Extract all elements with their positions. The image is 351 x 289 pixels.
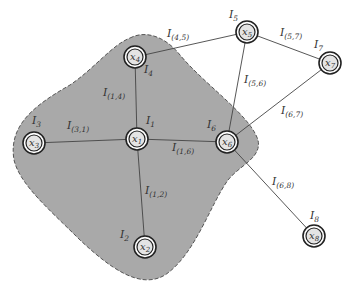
node-x2: x2: [134, 236, 156, 258]
node-x5: x5: [236, 21, 258, 43]
graph-diagram: I(1,4)I(3,1)I(1,6)I(1,2)I(4,5)I(5,6)I(5,…: [0, 0, 351, 289]
node-x4: x4: [124, 46, 146, 68]
node-label-x8: I8: [309, 209, 319, 224]
node-label-x5: I5: [228, 8, 238, 23]
node-x6: x6: [216, 131, 238, 153]
node-x8: x8: [303, 225, 325, 247]
edge-label-x6-x7: I(6,7): [280, 104, 303, 119]
node-x3: x3: [23, 132, 45, 154]
edge-label-x5-x6: I(5,6): [243, 73, 266, 88]
node-label-x7: I7: [313, 38, 323, 53]
edge-x6-x7: [227, 63, 330, 142]
node-x1: x1: [126, 128, 148, 150]
edge-label-x5-x7: I(5,7): [279, 26, 302, 41]
node-x7: x7: [319, 52, 341, 74]
edge-label-x6-x8: I(6,8): [271, 175, 294, 190]
edge-label-x4-x5: I(4,5): [166, 27, 189, 42]
edge-x6-x8: [227, 142, 314, 236]
